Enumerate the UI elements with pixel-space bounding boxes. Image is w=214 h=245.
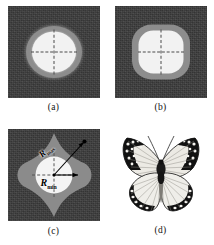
figure-grid: (a) (b) [0, 0, 214, 245]
panel-b: (b) [107, 0, 214, 122]
panel-d-image [115, 128, 207, 220]
panel-c-image: Rmax Rmin [8, 129, 100, 221]
panel-c: Rmax Rmin (c) [0, 122, 107, 245]
radius-arrows-c [8, 129, 100, 221]
label-r-min: Rmin [41, 178, 57, 191]
core-spot-b [138, 31, 183, 74]
panel-d: (d) [107, 122, 214, 245]
panel-b-caption: (b) [155, 102, 167, 112]
panel-a-caption: (a) [48, 102, 59, 112]
panel-d-caption: (d) [155, 225, 167, 235]
panel-a-image [8, 6, 100, 98]
label-r-min-subscript: min [47, 184, 57, 190]
panel-b-image [115, 6, 207, 98]
panel-a: (a) [0, 0, 107, 122]
panel-c-caption: (c) [48, 226, 59, 236]
butterfly-illustration [115, 128, 207, 220]
core-spot-a [32, 32, 76, 73]
